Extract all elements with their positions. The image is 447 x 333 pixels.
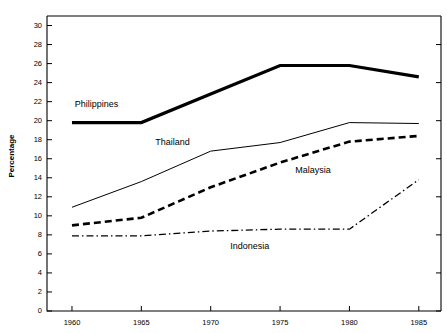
y-tick-label: 20 xyxy=(34,116,42,125)
series-label-malaysia: Malaysia xyxy=(295,165,331,175)
series-line-malaysia xyxy=(72,136,419,225)
y-tick-label: 6 xyxy=(38,249,42,258)
axis-spines xyxy=(47,16,441,311)
y-tick-label: 26 xyxy=(34,59,42,68)
x-tick-label: 1965 xyxy=(133,318,150,327)
series-lines xyxy=(72,65,419,235)
series-line-thailand xyxy=(72,123,419,208)
x-tick-label: 1980 xyxy=(341,318,358,327)
y-tick-label: 12 xyxy=(34,192,42,201)
x-tick-label: 1975 xyxy=(272,318,289,327)
x-tick-label: 1960 xyxy=(64,318,81,327)
y-tick-label: 16 xyxy=(34,154,42,163)
y-tick-label: 2 xyxy=(38,287,42,296)
y-tick-label: 18 xyxy=(34,135,42,144)
y-tick-label: 22 xyxy=(34,97,42,106)
y-tick-label: 24 xyxy=(34,78,42,87)
series-line-philippines xyxy=(72,65,419,122)
x-tick-label: 1970 xyxy=(202,318,219,327)
y-tick-label: 28 xyxy=(34,40,42,49)
axes-group xyxy=(47,16,441,311)
x-tick-label: 1985 xyxy=(410,318,427,327)
x-axis-ticks: 196019651970197519801985 xyxy=(64,45,441,327)
y-tick-label: 4 xyxy=(38,268,42,277)
series-label-thailand: Thailand xyxy=(155,137,190,147)
y-axis-ticks: 024681012141618202224262830 xyxy=(34,21,52,315)
y-tick-label: 10 xyxy=(34,211,42,220)
y-tick-label: 0 xyxy=(38,306,42,315)
chart-container: Percentage 024681012141618202224262830 1… xyxy=(0,0,447,333)
y-tick-label: 30 xyxy=(34,21,42,30)
y-tick-label: 14 xyxy=(34,173,42,182)
y-tick-label: 8 xyxy=(38,230,42,239)
line-chart-plot: 024681012141618202224262830 196019651970… xyxy=(0,0,447,333)
series-label-philippines: Philippines xyxy=(75,99,119,109)
series-label-indonesia: Indonesia xyxy=(230,241,269,251)
